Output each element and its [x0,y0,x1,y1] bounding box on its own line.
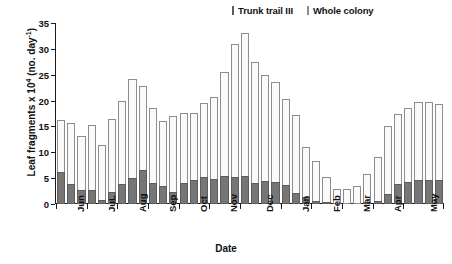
legend-swatch-trunk-trail-iii [232,6,234,15]
bar-group [384,23,392,204]
bar-trunk-trail-iii [180,183,188,204]
x-axis-tick [56,204,57,209]
bar-group [108,23,116,204]
bar-trunk-trail-iii [251,183,259,204]
x-axis-month-label: Feb [331,195,342,212]
bar-group [77,23,85,204]
bar-group [312,23,320,204]
bar-group [57,23,65,204]
y-axis-tick-label: 0 [44,199,49,210]
bar-group [118,23,126,204]
bar-group [210,23,218,204]
bar-group [394,23,402,204]
bar-group [435,23,443,204]
bar-group [374,23,382,204]
bar-group [169,23,177,204]
bar-whole-colony [292,115,300,204]
bar-group [180,23,188,204]
y-axis-tick-label: 5 [44,173,49,184]
bar-group [271,23,279,204]
y-axis-tick-label: 10 [38,147,49,158]
x-axis-month-label: Jan [300,196,311,212]
bar-group [425,23,433,204]
x-axis-month-label: JuL [106,195,117,212]
x-axis-title: Date [0,243,452,254]
x-axis-month-label: Apr [392,196,403,212]
bar-trunk-trail-iii [190,180,198,204]
chart-figure: Trunk trail III Whole colony Leaf fragme… [0,0,452,264]
x-axis-tick [179,204,180,209]
bar-group [404,23,412,204]
y-axis-tick-label: 20 [38,95,49,106]
bar-group [149,23,157,204]
bar-whole-colony [98,145,106,204]
bar-group [343,23,351,204]
bar-group [98,23,106,204]
bar-trunk-trail-iii [414,180,422,204]
bar-trunk-trail-iii [118,184,126,204]
x-axis-tick [342,204,343,209]
bar-group [128,23,136,204]
x-axis-month-label: Sep [167,195,178,212]
y-axis-ticks: 05101520253035 [0,23,55,204]
bar-group [139,23,147,204]
x-axis-tick [117,204,118,209]
bar-whole-colony [374,157,382,204]
bar-trunk-trail-iii [384,194,392,204]
y-axis-tick-label: 25 [38,69,49,80]
plot-area [56,23,444,204]
x-axis-tick [373,204,374,209]
x-axis-tick [311,204,312,209]
bar-whole-colony [312,161,320,204]
x-axis-month-label: May [428,194,439,212]
x-axis-tick [403,204,404,209]
x-axis-tick [443,204,444,209]
bar-group [251,23,259,204]
x-axis-month-label: Nov [228,194,239,212]
bar-trunk-trail-iii [292,193,300,204]
chart-legend: Trunk trail III Whole colony [232,5,374,16]
x-axis-tick [87,204,88,209]
bar-whole-colony [322,177,330,204]
bar-trunk-trail-iii [282,185,290,204]
bar-group [190,23,198,204]
bar-trunk-trail-iii [149,183,157,204]
x-axis-month-label: Dec [264,195,275,212]
x-axis-month-label: Mar [361,195,372,212]
bar-group [200,23,208,204]
y-axis-tick-label: 30 [38,43,49,54]
bar-trunk-trail-iii [404,182,412,204]
bar-trunk-trail-iii [210,179,218,204]
bar-group [363,23,371,204]
legend-item-trunk-trail-iii: Trunk trail III [232,5,293,16]
x-axis-month-label: Oct [198,196,209,212]
legend-swatch-whole-colony [307,6,309,15]
bar-trunk-trail-iii [241,176,249,204]
y-axis-tick-label: 35 [38,18,49,29]
x-axis-tick [281,204,282,209]
x-axis-month-label: Jun [75,195,86,212]
y-axis-tick [51,204,55,205]
bar-whole-colony [169,116,177,204]
legend-label-whole-colony: Whole colony [313,5,374,16]
bar-group [88,23,96,204]
bar-group [414,23,422,204]
bar-group [333,23,341,204]
y-axis-tick-label: 15 [38,121,49,132]
bar-group [231,23,239,204]
bar-group [220,23,228,204]
x-axis-tick [148,204,149,209]
legend-label-trunk-trail-iii: Trunk trail III [238,5,293,16]
bar-whole-colony [384,126,392,204]
x-axis-month-labels: JunJuLAugSepOctNovDecJanFebMarAprMay [56,210,444,246]
legend-item-whole-colony: Whole colony [307,5,374,16]
x-axis-month-label: Aug [137,194,148,212]
bar-group [292,23,300,204]
bar-group [302,23,310,204]
bar-group [261,23,269,204]
bar-group [353,23,361,204]
bar-trunk-trail-iii [128,178,136,204]
bar-group [282,23,290,204]
bar-trunk-trail-iii [57,172,65,204]
bar-group [159,23,167,204]
